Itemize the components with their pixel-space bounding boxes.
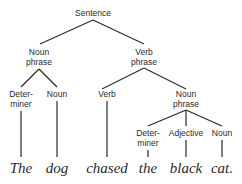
node-vp: Verb phrase: [131, 47, 157, 67]
tree-edges: [0, 0, 242, 184]
syntax-tree-diagram: SentenceNoun phraseVerb phraseDeter- min…: [0, 0, 242, 184]
node-det2: Deter- miner: [136, 128, 160, 148]
edge-vp-v: [102, 68, 144, 89]
word-black: black: [170, 160, 202, 176]
node-n1: Noun: [47, 89, 67, 99]
word-the: the: [139, 160, 157, 176]
edge-s-vp: [93, 20, 144, 44]
word-dog: dog: [46, 160, 69, 176]
edge-s-np1: [40, 20, 93, 44]
node-s: Sentence: [75, 8, 111, 18]
node-n2: Noun: [212, 128, 232, 138]
edge-vp-np2: [144, 68, 186, 89]
word-the: The: [10, 160, 33, 176]
edge-np2-n2: [186, 110, 222, 126]
node-det1: Deter- miner: [9, 89, 33, 109]
edge-np2-det2: [148, 110, 186, 126]
node-np2: Noun phrase: [173, 89, 199, 109]
node-v: Verb: [98, 89, 116, 99]
edge-np1-det1: [21, 69, 39, 87]
node-np1: Noun phrase: [26, 47, 52, 67]
edge-np1-n1: [39, 69, 57, 87]
word-chased: chased: [86, 160, 128, 176]
word-cat: cat.: [211, 160, 233, 176]
node-adj: Adjective: [169, 128, 204, 138]
